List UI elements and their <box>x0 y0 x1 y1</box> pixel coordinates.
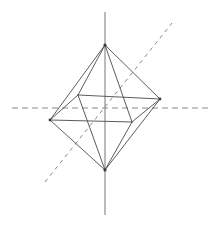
edge-bottom-to-far <box>78 95 105 170</box>
edge-top-to-far <box>78 45 105 95</box>
vertex-bottom-apex <box>103 168 106 171</box>
figure-canvas <box>0 0 224 226</box>
edge-top-to-left <box>50 45 105 120</box>
edge-equator-right-near <box>132 99 160 122</box>
octahedron-diagram <box>0 0 224 226</box>
edge-bottom-to-near <box>105 122 132 170</box>
vertex-equator-left <box>49 119 52 122</box>
edge-bottom-to-right <box>105 99 160 170</box>
axes-group <box>12 12 212 215</box>
diagonal-axis <box>45 23 172 182</box>
edge-top-to-near <box>105 45 132 122</box>
vertex-equator-right <box>159 98 162 101</box>
edge-bottom-to-left <box>50 120 105 170</box>
vertex-top-apex <box>103 43 106 46</box>
edge-equator-near-left <box>50 120 132 122</box>
edge-equator-far-right <box>78 95 160 99</box>
edge-top-to-right <box>105 45 160 99</box>
